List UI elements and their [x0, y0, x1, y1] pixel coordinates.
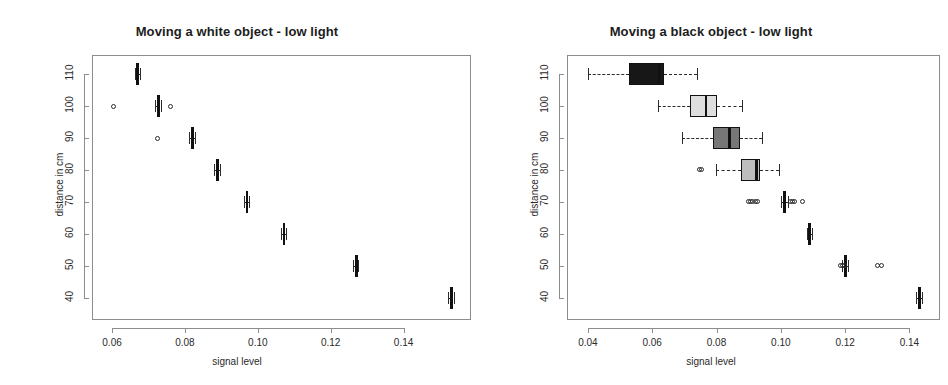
- x-axis-tick: [331, 328, 332, 333]
- y-axis-title: distance in cm: [54, 139, 65, 229]
- x-axis-tick: [404, 328, 405, 333]
- y-axis-tick-label: 50: [539, 253, 550, 275]
- y-axis-tick: [559, 138, 564, 139]
- x-axis-tick: [652, 328, 653, 333]
- x-axis-tick-label: 0.04: [578, 337, 597, 348]
- panel-title: Moving a white object - low light: [0, 24, 474, 39]
- x-axis-tick-label: 0.08: [707, 337, 726, 348]
- x-axis-tick: [717, 328, 718, 333]
- x-axis-tick-label: 0.14: [900, 337, 919, 348]
- x-axis-tick-label: 0.12: [835, 337, 854, 348]
- y-axis-tick-label: 90: [539, 126, 550, 148]
- y-axis-tick-label: 100: [539, 94, 550, 116]
- y-axis-tick-label: 110: [64, 62, 75, 84]
- y-axis-tick-label: 110: [539, 62, 550, 84]
- y-axis-tick: [84, 106, 89, 107]
- x-axis-tick-label: 0.12: [321, 337, 340, 348]
- y-axis-title: distance in cm: [529, 139, 540, 229]
- x-axis-tick: [781, 328, 782, 333]
- figure-boxplot-pair: Moving a white object - low light 0.060.…: [0, 0, 948, 385]
- plot-area: [567, 55, 940, 320]
- x-axis-tick-label: 0.06: [102, 337, 121, 348]
- y-axis-tick-label: 70: [539, 189, 550, 211]
- x-axis-title: signal level: [0, 356, 474, 367]
- x-axis-tick: [845, 328, 846, 333]
- x-axis-tick: [258, 328, 259, 333]
- y-axis-tick-label: 60: [539, 221, 550, 243]
- y-axis-tick: [84, 138, 89, 139]
- y-axis-tick: [84, 234, 89, 235]
- y-axis-tick: [559, 74, 564, 75]
- y-axis-tick-label: 80: [539, 157, 550, 179]
- y-axis-line: [84, 74, 85, 297]
- y-axis-tick: [559, 298, 564, 299]
- y-axis-tick-label: 90: [64, 126, 75, 148]
- x-axis-line: [588, 328, 910, 329]
- x-axis-tick-label: 0.14: [394, 337, 413, 348]
- y-axis-tick: [559, 234, 564, 235]
- x-axis-tick: [909, 328, 910, 333]
- y-axis-tick-label: 40: [539, 285, 550, 307]
- y-axis-tick: [84, 170, 89, 171]
- y-axis-tick: [84, 202, 89, 203]
- x-axis-tick: [112, 328, 113, 333]
- y-axis-tick: [84, 266, 89, 267]
- x-axis-tick-label: 0.10: [248, 337, 267, 348]
- y-axis-tick-label: 100: [64, 94, 75, 116]
- panel-title: Moving a black object - low light: [474, 24, 948, 39]
- y-axis-tick-label: 70: [64, 189, 75, 211]
- plot-area: [92, 55, 471, 320]
- y-axis-tick-label: 80: [64, 157, 75, 179]
- x-axis-tick: [185, 328, 186, 333]
- panel-white-object: Moving a white object - low light 0.060.…: [0, 0, 474, 385]
- y-axis-line: [559, 74, 560, 297]
- y-axis-tick-label: 40: [64, 285, 75, 307]
- x-axis-tick: [588, 328, 589, 333]
- y-axis-tick: [559, 106, 564, 107]
- y-axis-tick-label: 50: [64, 253, 75, 275]
- y-axis-tick-label: 60: [64, 221, 75, 243]
- x-axis-title: signal level: [474, 356, 948, 367]
- panel-black-object: Moving a black object - low light 0.040.…: [474, 0, 948, 385]
- y-axis-tick: [84, 298, 89, 299]
- y-axis-tick: [559, 170, 564, 171]
- y-axis-tick: [559, 202, 564, 203]
- x-axis-tick-label: 0.08: [175, 337, 194, 348]
- y-axis-tick: [559, 266, 564, 267]
- x-axis-tick-label: 0.10: [771, 337, 790, 348]
- x-axis-tick-label: 0.06: [642, 337, 661, 348]
- y-axis-tick: [84, 74, 89, 75]
